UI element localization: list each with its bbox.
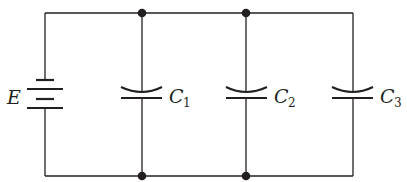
capacitor-c1-label: C	[169, 85, 184, 107]
junction-dot-top-1	[138, 9, 147, 18]
battery-label: E	[6, 86, 21, 108]
circuit-diagram: E C 1 C 2 C 3	[0, 0, 407, 182]
junction-dot-bottom-1	[138, 172, 147, 181]
battery-symbol	[27, 80, 63, 108]
capacitor-c3-subscript: 3	[394, 96, 402, 110]
capacitor-c2-label: C	[274, 85, 289, 107]
capacitor-c1-subscript: 1	[183, 96, 191, 110]
capacitor-c2-subscript: 2	[288, 96, 296, 110]
junction-dot-top-2	[242, 9, 251, 18]
capacitor-c3-label: C	[380, 85, 395, 107]
junction-dot-bottom-2	[242, 172, 251, 181]
